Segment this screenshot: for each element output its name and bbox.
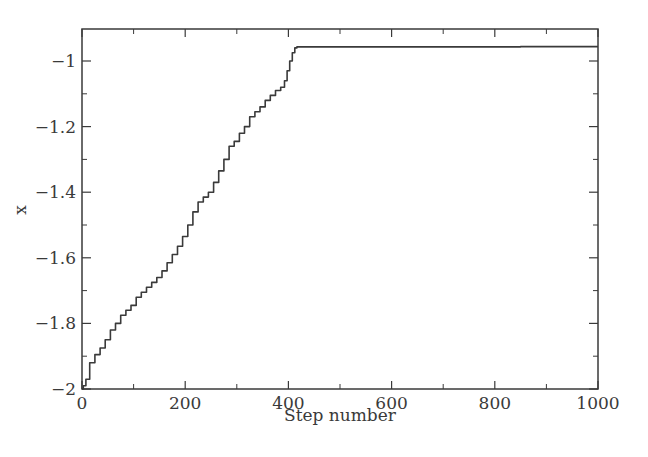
x-axis-label: Step number xyxy=(284,405,397,425)
y-tick-label: −1.6 xyxy=(35,248,76,268)
plot-frame xyxy=(82,29,598,389)
x-tick-label: 1000 xyxy=(576,393,619,413)
x-tick-label: 0 xyxy=(77,393,88,413)
y-axis-label: x xyxy=(10,205,30,215)
ticks: 02004006008001000−2−1.8−1.6−1.4−1.2−1 xyxy=(35,29,620,413)
y-tick-label: −1.2 xyxy=(35,117,76,137)
data-line-x xyxy=(82,47,598,389)
chart-svg: 02004006008001000−2−1.8−1.6−1.4−1.2−1 St… xyxy=(0,0,648,457)
plot-area xyxy=(82,47,598,389)
axes xyxy=(82,29,598,389)
x-tick-label: 800 xyxy=(479,393,511,413)
y-tick-label: −1.8 xyxy=(35,313,76,333)
x-tick-label: 200 xyxy=(169,393,201,413)
y-tick-label: −1.4 xyxy=(35,182,76,202)
y-tick-label: −1 xyxy=(51,51,76,71)
y-tick-label: −2 xyxy=(51,379,76,399)
